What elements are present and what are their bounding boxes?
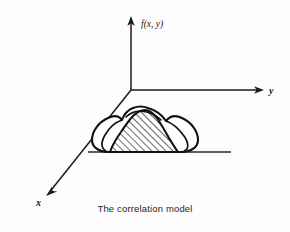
density-surface-group [92,100,198,160]
horizontal-axis-label: y [268,85,274,96]
figure-caption: The correlation model [0,203,290,214]
figure-container: f(x, y) y x The correlation model [0,0,290,232]
correlation-model-diagram: f(x, y) y x [0,0,290,232]
axis-group [46,16,264,196]
diagonal-axis-arrowhead [46,186,57,196]
vertical-axis-label: f(x, y) [141,19,163,30]
